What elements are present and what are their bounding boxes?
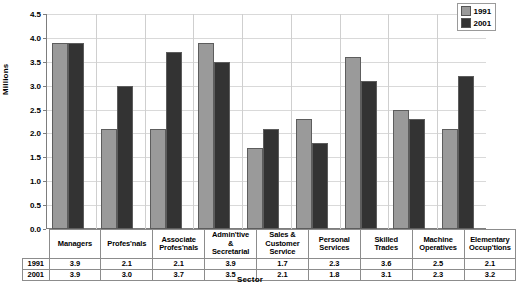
table-cell: 2.1 [464,259,516,270]
bar-group [193,14,242,229]
legend-item-2001: 2001 [461,18,491,28]
table-cell: 2.5 [412,259,464,270]
bar-2001-managers [68,43,84,229]
bar-group [96,14,145,229]
bar-2001-machineoperatives [409,119,425,229]
group-divider [340,14,341,229]
table-cell: 3.9 [49,259,101,270]
table-column-header: AssociateProfes'nals [153,230,205,259]
table-corner-cell [23,230,50,259]
y-axis-tick-label: 3.0 [30,81,41,90]
table-column-header: Sales &CustomerService [257,230,309,259]
table-cell: 2.1 [101,259,153,270]
group-divider [242,14,243,229]
bars-layer [47,14,486,229]
y-axis-tick-label: 3.5 [30,57,41,66]
bar-1991-skilledtrades [345,57,361,229]
bar-group [47,14,96,229]
y-axis-tick-label: 1.5 [30,153,41,162]
group-divider [96,14,97,229]
group-divider [437,14,438,229]
table-column-header: SkilledTrades [360,230,412,259]
bar-1991-elementaryoccuptions [442,129,458,229]
y-axis-tick [43,205,46,206]
table-cell: 2.1 [153,259,205,270]
legend-swatch-1991 [461,6,471,16]
legend-swatch-2001 [461,18,471,28]
x-axis-title: Sector [0,275,500,284]
bar-2001-associateprofesnals [166,52,182,229]
y-axis-tick-label: 0.5 [30,201,41,210]
y-axis-tick [43,133,46,134]
table-cell: 1.7 [257,259,309,270]
bar-1991-managers [52,43,68,229]
table-column-header: Managers [49,230,101,259]
table-row: 19913.92.12.13.91.72.33.62.52.1 [23,259,516,270]
y-axis-tick [43,181,46,182]
bar-1991-machineoperatives [393,110,409,229]
table-column-header: PersonalServices [308,230,360,259]
legend-label-1991: 1991 [474,7,491,16]
bar-2001-personalservices [312,143,328,229]
y-axis-tick [43,110,46,111]
group-divider [388,14,389,229]
bar-1991-salescustomerservice [247,148,263,229]
legend-item-1991: 1991 [461,6,491,16]
chart-legend: 1991 2001 [457,3,496,31]
table-column-header: MachineOperatives [412,230,464,259]
legend-label-2001: 2001 [474,19,491,28]
bar-2001-skilledtrades [361,81,377,229]
bar-1991-associateprofesnals [150,129,166,229]
y-axis-tick [43,38,46,39]
table-column-header: ElementaryOccup'tions [464,230,516,259]
bar-group [145,14,194,229]
y-axis-tick-label: 2.0 [30,129,41,138]
bar-1991-profesnals [101,129,117,229]
y-axis-tick [43,157,46,158]
y-axis-tick-label: 4.5 [30,10,41,19]
bar-2001-elementaryoccuptions [458,76,474,229]
table-column-header: Profes'nals [101,230,153,259]
bar-2001-profesnals [117,86,133,229]
table-cell: 3.9 [205,259,257,270]
y-axis-tick-label: 4.0 [30,33,41,42]
group-divider [291,14,292,229]
bar-1991-personalservices [296,119,312,229]
table-cell: 2.3 [308,259,360,270]
plot-area: 0.00.51.01.52.02.53.03.54.04.5 [46,14,486,229]
bar-group [242,14,291,229]
y-axis-tick-label: 2.5 [30,105,41,114]
bar-2001-admintivesecretarial [214,62,230,229]
bar-group [388,14,437,229]
bar-group [437,14,486,229]
y-axis-tick [43,62,46,63]
group-divider [193,14,194,229]
y-axis-title: Millions [1,64,10,95]
bar-1991-admintivesecretarial [198,43,214,229]
y-axis-tick-label: 1.0 [30,177,41,186]
table-row-header: 1991 [23,259,50,270]
bar-group [340,14,389,229]
y-axis-tick [43,14,46,15]
bar-group [291,14,340,229]
table-header-row: ManagersProfes'nalsAssociateProfes'nalsA… [23,230,516,259]
data-table-wrapper: ManagersProfes'nalsAssociateProfes'nalsA… [22,229,486,281]
bar-2001-salescustomerservice [263,129,279,229]
table-column-header: Admin'tive&Secretarial [205,230,257,259]
data-table: ManagersProfes'nalsAssociateProfes'nalsA… [22,229,516,281]
y-axis-tick [43,86,46,87]
group-divider [145,14,146,229]
table-cell: 3.6 [360,259,412,270]
